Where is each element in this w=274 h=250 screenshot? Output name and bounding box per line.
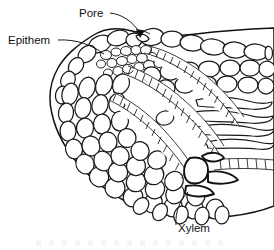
label-epithem-text: Epithem [8,34,50,46]
label-xylem-text: Xylem [178,222,210,234]
hydathode-diagram: Pore Epithem Xylem [0,0,274,250]
bottom-caption-artifact [36,240,226,246]
figure-root: Pore Epithem Xylem [0,0,274,250]
label-pore-text: Pore [79,7,103,19]
